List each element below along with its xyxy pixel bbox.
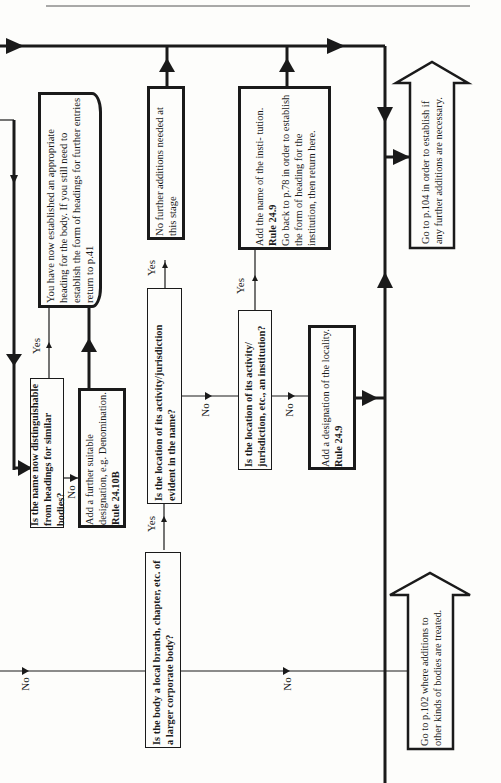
action-add-locality: Add a designation of the locality. Rule … [308, 325, 356, 470]
goto-p104-text: Go to p.104 in order to establish if any… [419, 86, 445, 244]
decision-local-branch-text: Is the body a local branch, chapter, etc… [150, 555, 176, 745]
action-no-further-text: No further additions needed at this stag… [153, 90, 179, 236]
edge-label-yes-location-institution: Yes [234, 278, 246, 294]
decision-local-branch: Is the body a local branch, chapter, etc… [145, 552, 181, 748]
edge-label-yes-distinguishable: Yes [30, 338, 42, 354]
edge-label-yes-local-branch: Yes [145, 516, 157, 532]
decision-location-institution-text: Is the location of its activity/ jurisdi… [242, 313, 268, 467]
action-no-further-additions: No further additions needed at this stag… [147, 86, 185, 240]
decision-distinguishable: Is the name now distinguishable from hea… [30, 378, 64, 528]
decision-distinguishable-text: Is the name now distinguishable from hea… [28, 380, 67, 526]
edge-label-no-distinguishable: No [65, 485, 77, 498]
terminal-established: You have now established an appropriate … [38, 92, 102, 308]
edge-label-yes-location-evident: Yes [145, 260, 157, 276]
terminal-established-text: You have now established an appropriate … [44, 97, 96, 303]
goto-p102[interactable]: Go to p.102 where additions to other kin… [410, 596, 451, 747]
edge-label-no-location-evident: No [199, 403, 211, 416]
edge-label-no-location-institution: No [283, 403, 295, 416]
action-further-designation: Add a further suitable designation, e.g.… [78, 388, 126, 528]
goto-p104[interactable]: Go to p.104 in order to establish if any… [412, 84, 452, 246]
edge-label-no-local-branch-left: No [19, 677, 31, 690]
action-add-locality-text: Add a designation of the locality. Rule … [319, 329, 345, 467]
decision-location-institution: Is the location of its activity/ jurisdi… [238, 310, 272, 470]
action-add-institution-text: Add the name of the insti- tution. Rule … [252, 90, 317, 246]
goto-p102-text: Go to p.102 where additions to other kin… [418, 598, 444, 746]
action-add-institution: Add the name of the insti- tution. Rule … [238, 86, 331, 250]
action-further-designation-text: Add a further suitable designation, e.g.… [83, 391, 122, 525]
decision-location-evident-text: Is the location of its activity/jurisdic… [152, 291, 178, 501]
edge-label-no-local-branch-right: No [281, 677, 293, 690]
decision-location-evident: Is the location of its activity/jurisdic… [147, 288, 182, 504]
